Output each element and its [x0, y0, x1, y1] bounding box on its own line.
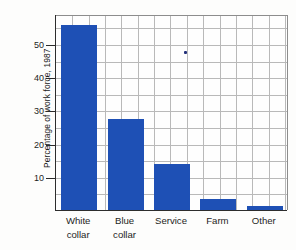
y-axis-tick-label: 40: [22, 74, 44, 83]
y-axis-tick-label: 10: [22, 173, 44, 182]
y-axis-tick-mark: [46, 111, 55, 112]
stray-ink-speck-icon: [184, 51, 187, 54]
y-axis-tick-label: 20: [22, 140, 44, 149]
x-axis-label-blue-collar: Blue collar: [101, 214, 147, 241]
x-axis-category-labels: White collarBlue collarServiceFarmOther: [55, 214, 287, 250]
plot-area: [55, 15, 287, 211]
y-axis-tick-mark: [46, 45, 55, 46]
plot-right-border: [287, 15, 288, 210]
x-axis-label-white-collar: White collar: [55, 214, 101, 241]
y-axis-tick-label: 50: [22, 40, 44, 49]
y-axis-tick-label: 30: [22, 107, 44, 116]
x-axis-label-farm: Farm: [194, 214, 240, 228]
y-axis-tick-labels: 1020304050: [18, 0, 44, 250]
x-axis-label-service: Service: [148, 214, 194, 228]
y-axis-tick-mark: [46, 78, 55, 79]
y-axis-tick-mark: [46, 145, 55, 146]
y-axis-tick-mark: [46, 178, 55, 179]
x-axis-label-other: Other: [241, 214, 287, 228]
bar-chart-figure: Percentage of work force, 1987 102030405…: [0, 0, 296, 250]
speck-layer: [56, 15, 287, 210]
